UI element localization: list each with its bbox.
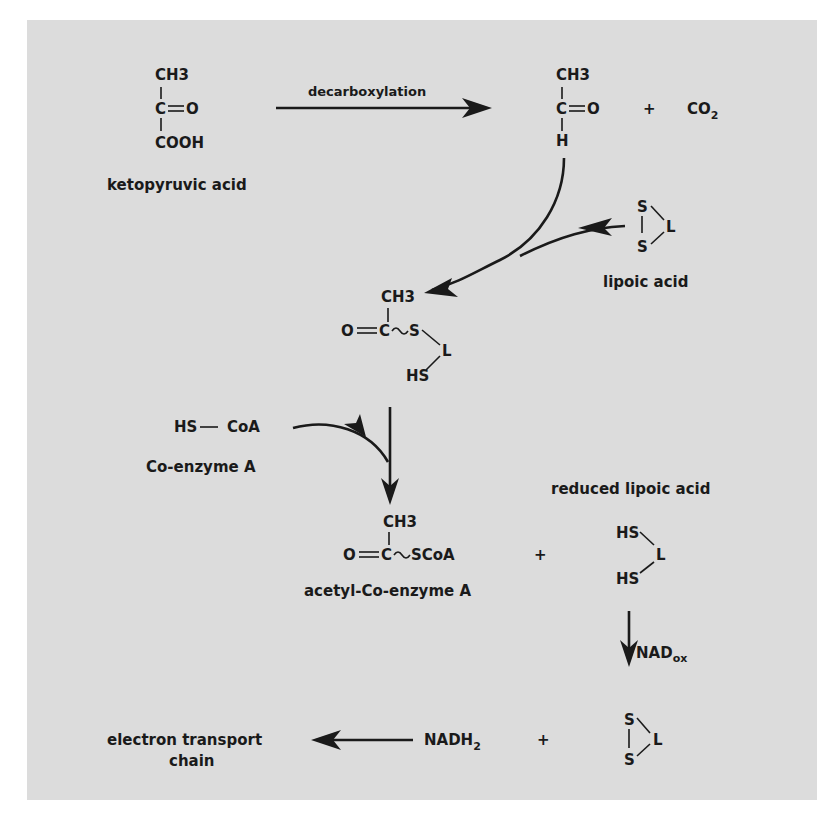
hydrogen-label: H	[556, 132, 569, 150]
ketopyruvic-acid-label: ketopyruvic acid	[107, 176, 247, 194]
svg-text:CO2: CO2	[687, 100, 718, 122]
nadh2-label: NADH2	[424, 731, 481, 753]
coa-addition-arrow	[293, 407, 399, 505]
cooh-label: COOH	[155, 134, 204, 152]
hs-label: HS	[174, 418, 197, 436]
l-label: L	[656, 546, 666, 564]
coenzyme-a-structure: HS CoA Co-enzyme A	[146, 418, 260, 476]
sulfur-label: S	[624, 751, 635, 769]
plus-sign: +	[537, 731, 550, 749]
thioester-intermediate: CH3 O C S L HS	[341, 288, 452, 385]
ch3-label: CH3	[556, 66, 590, 84]
decarboxylation-label: decarboxylation	[308, 84, 426, 99]
reduced-lipoic-acid-structure: reduced lipoic acid HS L HS	[551, 480, 711, 588]
co2-label: CO2	[687, 100, 718, 122]
l-label: L	[666, 218, 676, 236]
lipoic-transfer-arrow	[424, 158, 625, 297]
decarboxylation-arrow: decarboxylation	[276, 84, 492, 118]
sulfur-label: S	[637, 238, 648, 256]
carbon-label: C	[155, 100, 166, 118]
carbon-label: C	[381, 546, 392, 564]
etc-label-line2: chain	[169, 752, 215, 770]
oxygen-label: O	[186, 100, 199, 118]
ch3-label: CH3	[381, 288, 415, 306]
oxygen-label: O	[587, 100, 600, 118]
electron-transport-chain: electron transport chain	[107, 731, 262, 770]
sulfur-label: S	[624, 711, 635, 729]
scoa-label: SCoA	[411, 546, 455, 564]
hs-label: HS	[616, 524, 639, 542]
ketopyruvic-acid-structure: CH3 C O COOH ketopyruvic acid	[107, 66, 247, 194]
acetyl-coa-label: acetyl-Co-enzyme A	[304, 582, 471, 600]
acetyl-coa-structure: CH3 O C SCoA acetyl-Co-enzyme A	[304, 513, 471, 600]
oxygen-label: O	[343, 546, 356, 564]
regenerated-lipoic-acid-structure: S S L	[624, 711, 663, 769]
oxygen-label: O	[341, 322, 354, 340]
reduced-lipoic-acid-label: reduced lipoic acid	[551, 480, 711, 498]
electron-transport-arrow	[311, 730, 413, 750]
l-label: L	[442, 342, 452, 360]
hs-label: HS	[406, 367, 429, 385]
plus-sign: +	[643, 100, 656, 118]
pathway-diagram: CH3 C O COOH ketopyruvic acid decarboxyl…	[0, 0, 838, 823]
svg-text:NADH2: NADH2	[424, 731, 481, 753]
carbon-label: C	[379, 322, 390, 340]
lipoic-acid-label: lipoic acid	[603, 273, 688, 291]
ch3-label: CH3	[155, 66, 189, 84]
coenzyme-a-label: Co-enzyme A	[146, 458, 256, 476]
nad-oxidation-arrow: NADox	[620, 611, 687, 667]
carbon-label: C	[556, 100, 567, 118]
etc-label-line1: electron transport	[107, 731, 262, 749]
ch3-label: CH3	[383, 513, 417, 531]
sulfur-label: S	[637, 198, 648, 216]
acetaldehyde-structure: CH3 C O H	[556, 66, 600, 150]
hs-label: HS	[616, 570, 639, 588]
high-energy-bond-icon	[394, 552, 410, 558]
high-energy-bond-icon	[392, 328, 408, 334]
l-label: L	[653, 731, 663, 749]
coa-label: CoA	[227, 418, 260, 436]
plus-sign: +	[534, 546, 547, 564]
nad-ox-label: NADox	[636, 644, 687, 665]
lipoic-acid-structure: S S L lipoic acid	[603, 198, 688, 291]
sulfur-label: S	[409, 322, 420, 340]
